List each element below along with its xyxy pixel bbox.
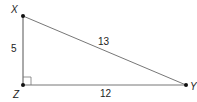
vertex-x-point	[21, 14, 25, 18]
side-xy	[23, 16, 186, 85]
side-xy-length: 13	[98, 36, 110, 47]
side-zy-length: 12	[100, 88, 112, 99]
vertex-z-label: Z	[12, 89, 20, 100]
vertex-y-point	[184, 83, 188, 87]
vertex-z-point	[21, 83, 25, 87]
side-xz-length: 5	[11, 43, 17, 54]
triangle-diagram: X Z Y 5 13 12	[0, 0, 197, 102]
vertex-y-label: Y	[190, 81, 197, 92]
vertex-x-label: X	[10, 4, 18, 15]
